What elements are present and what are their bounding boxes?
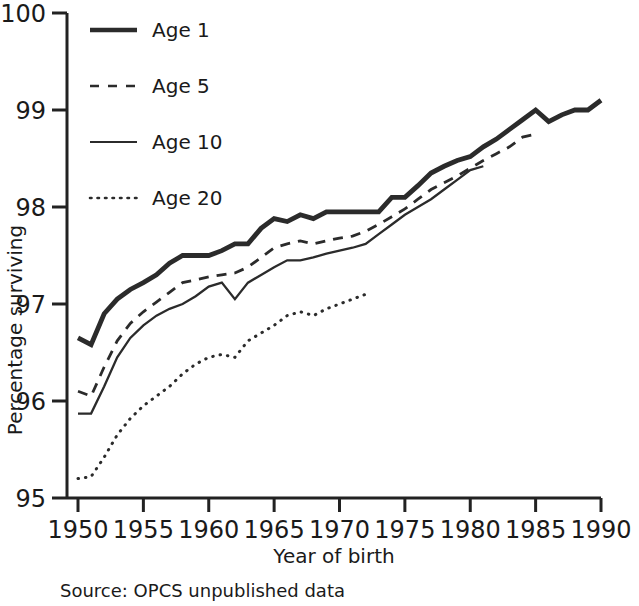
legend-label-age-1: Age 1 <box>152 18 210 42</box>
x-tick-label: 1955 <box>113 516 174 544</box>
x-tick-label: 1970 <box>309 516 370 544</box>
y-tick-label: 99 <box>15 97 46 125</box>
x-tick-label: 1960 <box>178 516 239 544</box>
y-tick-label: 100 <box>0 0 46 28</box>
y-axis-ticks <box>52 13 67 498</box>
legend-label-age-20: Age 20 <box>152 186 223 210</box>
chart-legend: Age 1 Age 5 Age 10 Age 20 <box>90 18 223 210</box>
data-series-layer <box>78 100 601 478</box>
y-tick-label: 96 <box>15 388 46 416</box>
series-line-age-20 <box>78 294 366 478</box>
y-tick-label: 95 <box>15 485 46 513</box>
x-tick-label: 1985 <box>505 516 566 544</box>
legend-item-age-1[interactable]: Age 1 <box>90 18 210 42</box>
x-axis-title: Year of birth <box>272 544 394 568</box>
x-tick-label: 1980 <box>440 516 501 544</box>
source-note: Source: OPCS unpublished data <box>60 580 345 601</box>
x-tick-label: 1990 <box>570 516 631 544</box>
legend-label-age-5: Age 5 <box>152 74 210 98</box>
survival-line-chart: Percentage surviving 9596979899100 19501… <box>0 0 639 606</box>
series-line-age-10 <box>78 166 483 413</box>
x-axis-tick-labels: 195019551960196519701975198019851990 <box>47 516 631 544</box>
x-tick-label: 1950 <box>47 516 108 544</box>
legend-item-age-20[interactable]: Age 20 <box>90 186 223 210</box>
chart-figure: Percentage surviving 9596979899100 19501… <box>0 0 639 606</box>
legend-label-age-10: Age 10 <box>152 130 223 154</box>
y-tick-label: 97 <box>15 291 46 319</box>
legend-item-age-10[interactable]: Age 10 <box>90 130 223 154</box>
legend-item-age-5[interactable]: Age 5 <box>90 74 210 98</box>
y-tick-label: 98 <box>15 194 46 222</box>
x-tick-label: 1975 <box>374 516 435 544</box>
x-tick-label: 1965 <box>244 516 305 544</box>
x-axis-ticks <box>78 498 601 512</box>
